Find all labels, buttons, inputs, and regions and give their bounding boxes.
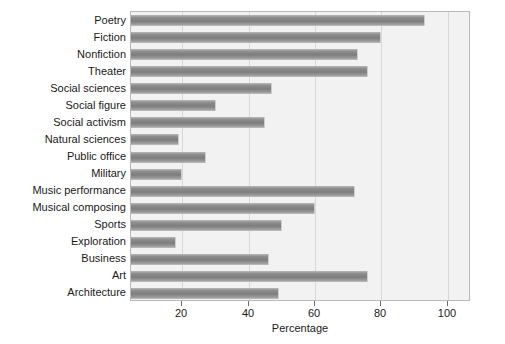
bar-row xyxy=(131,203,470,214)
bar-row xyxy=(131,15,470,26)
bar-row xyxy=(131,66,470,77)
x-tick-label-40: 40 xyxy=(242,307,254,319)
category-label-social-sciences: Social sciences xyxy=(0,82,126,94)
bar-row xyxy=(131,271,470,282)
bar xyxy=(131,220,282,231)
x-tick-mark-100 xyxy=(447,301,448,306)
bar-row xyxy=(131,134,470,145)
bar-row xyxy=(131,237,470,248)
bar-row xyxy=(131,49,470,60)
bar xyxy=(131,288,279,299)
x-tick-mark-20 xyxy=(181,301,182,306)
x-axis-title: Percentage xyxy=(130,322,470,334)
x-tick-label-100: 100 xyxy=(438,307,456,319)
category-label-sports: Sports xyxy=(0,218,126,230)
category-label-military: Military xyxy=(0,167,126,179)
bar xyxy=(131,186,355,197)
bar-row xyxy=(131,117,470,128)
bar xyxy=(131,117,265,128)
bar xyxy=(131,237,176,248)
category-label-natural-sciences: Natural sciences xyxy=(0,133,126,145)
bar xyxy=(131,203,315,214)
bar-row xyxy=(131,100,470,111)
bar xyxy=(131,152,206,163)
bar xyxy=(131,83,272,94)
x-tick-mark-40 xyxy=(248,301,249,306)
category-label-art: Art xyxy=(0,269,126,281)
bar-row xyxy=(131,220,470,231)
bar-row xyxy=(131,32,470,43)
category-label-music-performance: Music performance xyxy=(0,184,126,196)
bar-row xyxy=(131,288,470,299)
bar xyxy=(131,169,182,180)
bar xyxy=(131,254,269,265)
category-label-public-office: Public office xyxy=(0,150,126,162)
category-label-poetry: Poetry xyxy=(0,14,126,26)
x-axis: 20406080100 xyxy=(130,301,470,323)
bar-row xyxy=(131,169,470,180)
bar xyxy=(131,100,216,111)
category-label-fiction: Fiction xyxy=(0,31,126,43)
category-label-theater: Theater xyxy=(0,65,126,77)
bar-row xyxy=(131,186,470,197)
category-label-musical-composing: Musical composing xyxy=(0,201,126,213)
category-label-architecture: Architecture xyxy=(0,286,126,298)
category-label-social-figure: Social figure xyxy=(0,99,126,111)
bar-row xyxy=(131,254,470,265)
plot-area xyxy=(130,11,470,301)
bar xyxy=(131,32,381,43)
bar xyxy=(131,15,425,26)
bar-row xyxy=(131,152,470,163)
x-tick-label-20: 20 xyxy=(175,307,187,319)
bar xyxy=(131,134,179,145)
x-tick-mark-80 xyxy=(380,301,381,306)
category-label-social-activism: Social activism xyxy=(0,116,126,128)
x-tick-label-80: 80 xyxy=(374,307,386,319)
category-label-exploration: Exploration xyxy=(0,235,126,247)
bar-chart-figure: PoetryFictionNonfictionTheaterSocial sci… xyxy=(0,0,505,344)
category-axis-labels: PoetryFictionNonfictionTheaterSocial sci… xyxy=(0,11,126,301)
bar-row xyxy=(131,83,470,94)
bar xyxy=(131,66,368,77)
x-tick-mark-60 xyxy=(314,301,315,306)
category-label-nonfiction: Nonfiction xyxy=(0,48,126,60)
bar xyxy=(131,271,368,282)
x-tick-label-60: 60 xyxy=(308,307,320,319)
category-label-business: Business xyxy=(0,252,126,264)
bar xyxy=(131,49,358,60)
